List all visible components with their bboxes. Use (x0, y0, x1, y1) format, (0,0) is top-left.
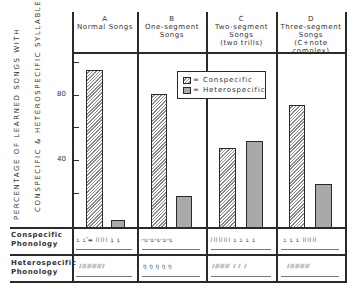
bar-a-heterospecific (111, 220, 125, 228)
legend-label-heterospecific: = Heterospecific (193, 86, 266, 94)
bar-d-conspecific (289, 105, 305, 228)
y-axis-label-line1: PERCENTAGE OF LEARNED SONGS WITH (13, 28, 21, 220)
y-tick-label-80: 80 (48, 90, 66, 98)
phonology-underline (142, 249, 200, 250)
y-tick-100 (72, 62, 79, 63)
bar-d-heterospecific (315, 184, 332, 228)
y-tick-60 (72, 127, 79, 128)
phonology-underline (211, 249, 271, 250)
legend-label-conspecific: = Conspecific (193, 76, 253, 84)
bottom-line (10, 281, 347, 283)
phonology-underline (142, 276, 200, 277)
phonology-conspecific-a: ı ı˜▬ ⌇⌇⌇⌇⌇ ı̣ ı̣ (76, 236, 120, 243)
y-tick-80 (72, 95, 79, 96)
phonology-conspecific-d: ı ı ı ⌇⌇⌇⌇⌇⌇ (283, 236, 317, 243)
column-title-a: A Normal Songs (73, 15, 137, 31)
column-title-d: D Three-segment Songs (C+note complex) (277, 15, 345, 55)
y-tick-label-40: 40 (48, 155, 66, 163)
legend-swatch-heterospecific (183, 87, 191, 94)
bar-c-heterospecific (246, 141, 263, 228)
phonology-conspecific-b: ⌒ı⌒ı⌒ı⌒ı⌒ı (141, 236, 172, 243)
phonology-heterospecific-a: ⫽⫽⫽⫽⫽⫽⫽⫽⫽⫽ (79, 262, 104, 270)
phonology-underline (281, 249, 339, 250)
row-label-heterospecific-phonology: Heterospecific Phonology (11, 259, 76, 277)
phonology-underline (211, 276, 271, 277)
phonology-underline (76, 276, 132, 277)
bar-a-conspecific (86, 70, 103, 228)
phonology-underline (281, 276, 339, 277)
phonology-heterospecific-b: ŋ ŋ ŋ ŋ ŋ (143, 262, 171, 269)
phonology-divider (10, 254, 347, 256)
legend-swatch-conspecific (183, 77, 191, 84)
bar-c-conspecific (219, 148, 236, 228)
phonology-heterospecific-d: ⫽⫽⫽⫽⫽⫽⫽⫽⫽ (287, 262, 310, 270)
phonology-conspecific-c: ⌇⌇⌇⌇⌇⌇⌇⌇ ı ı ı ı (210, 236, 255, 243)
y-tick-40 (72, 160, 79, 161)
bar-b-conspecific (151, 94, 167, 228)
column-title-b: B One-segment Songs (138, 15, 206, 39)
phonology-underline (76, 249, 132, 250)
row-label-conspecific-phonology: Conspecific Phonology (11, 231, 63, 249)
legend: = Conspecific = Heterospecific (177, 71, 266, 99)
column-title-c: C Two-segment Songs (two trills) (207, 15, 276, 47)
y-tick-20 (72, 193, 79, 194)
y-axis-label-line2: CONSPECIFIC & HETEROSPECIFIC SYLLABLES (34, 0, 42, 212)
phonology-heterospecific-c: ⫽⫽⫽⫽⫽⫽⫽ ⫽ ⫽ ⫽ (212, 262, 246, 270)
bar-b-heterospecific (176, 196, 192, 228)
